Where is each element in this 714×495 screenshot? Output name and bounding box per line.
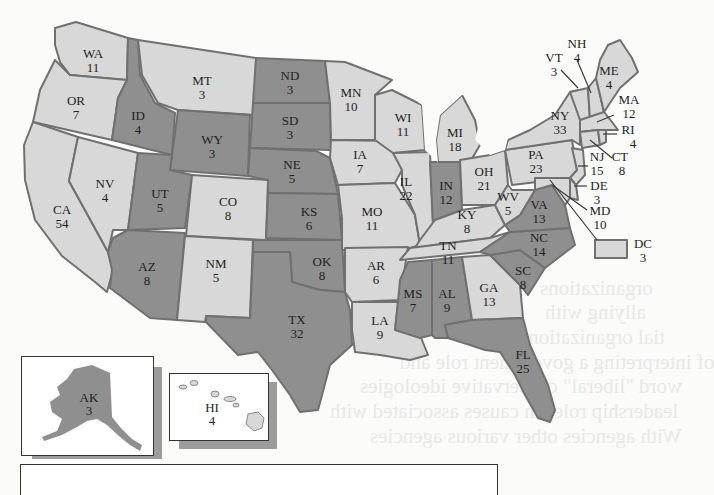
svg-text:OK: OK [313, 254, 332, 269]
svg-text:TX: TX [288, 312, 306, 327]
svg-text:AR: AR [367, 258, 385, 273]
svg-text:VA: VA [530, 197, 548, 212]
svg-text:CO: CO [219, 194, 237, 209]
svg-text:CA: CA [53, 202, 72, 217]
svg-text:54: 54 [56, 216, 70, 231]
svg-text:7: 7 [73, 107, 80, 122]
svg-text:UT: UT [151, 186, 168, 201]
svg-text:MO: MO [362, 204, 383, 219]
svg-text:8: 8 [225, 208, 232, 223]
svg-text:MD: MD [590, 203, 611, 218]
alaska-shape: AK 3 [22, 357, 153, 455]
svg-text:9: 9 [444, 300, 451, 315]
svg-text:21: 21 [478, 178, 491, 193]
svg-text:3: 3 [209, 146, 216, 161]
svg-text:NC: NC [530, 230, 548, 245]
state-DC-box [595, 240, 627, 258]
svg-text:NY: NY [551, 108, 570, 123]
svg-text:WY: WY [201, 132, 223, 147]
svg-text:3: 3 [287, 82, 294, 97]
svg-text:9: 9 [377, 327, 384, 342]
leader-line-VT [561, 70, 578, 88]
svg-text:10: 10 [345, 99, 358, 114]
svg-text:7: 7 [357, 161, 364, 176]
svg-text:23: 23 [530, 161, 543, 176]
svg-text:PA: PA [528, 147, 544, 162]
svg-text:5: 5 [289, 171, 296, 186]
svg-text:TN: TN [439, 238, 457, 253]
svg-text:11: 11 [397, 124, 410, 139]
svg-text:3: 3 [86, 403, 93, 418]
svg-text:CT: CT [612, 149, 629, 164]
svg-text:MA: MA [619, 92, 641, 107]
svg-text:7: 7 [410, 300, 417, 315]
svg-text:IN: IN [439, 178, 453, 193]
svg-text:VT: VT [545, 50, 562, 65]
svg-text:IA: IA [353, 147, 367, 162]
svg-text:4: 4 [102, 190, 109, 205]
svg-text:SD: SD [282, 113, 299, 128]
svg-text:KS: KS [301, 204, 318, 219]
svg-text:3: 3 [199, 87, 206, 102]
alaska-inset: AK 3 [21, 356, 154, 456]
svg-text:22: 22 [400, 188, 413, 203]
svg-text:WI: WI [395, 110, 412, 125]
svg-text:6: 6 [373, 272, 380, 287]
svg-text:NV: NV [96, 176, 115, 191]
svg-text:25: 25 [517, 361, 530, 376]
svg-text:12: 12 [440, 192, 453, 207]
svg-text:12: 12 [623, 106, 636, 121]
svg-text:13: 13 [533, 211, 546, 226]
svg-text:OH: OH [475, 164, 494, 179]
svg-text:NM: NM [206, 256, 227, 271]
svg-text:33: 33 [554, 122, 567, 137]
svg-text:ID: ID [131, 108, 145, 123]
svg-text:MS: MS [404, 286, 423, 301]
svg-text:AZ: AZ [138, 259, 155, 274]
svg-text:DE: DE [590, 178, 607, 193]
svg-text:4: 4 [630, 136, 637, 151]
svg-text:DC: DC [634, 236, 652, 251]
svg-text:LA: LA [371, 313, 389, 328]
svg-text:GA: GA [480, 280, 499, 295]
svg-text:WA: WA [83, 46, 104, 61]
svg-text:RI: RI [622, 122, 635, 137]
svg-text:NJ: NJ [590, 149, 604, 164]
svg-text:11: 11 [87, 60, 100, 75]
svg-text:NH: NH [568, 36, 587, 51]
svg-text:IL: IL [400, 174, 412, 189]
svg-text:6: 6 [306, 218, 313, 233]
svg-text:10: 10 [594, 217, 607, 232]
svg-text:ND: ND [281, 68, 300, 83]
svg-text:8: 8 [144, 273, 151, 288]
svg-text:8: 8 [520, 277, 527, 292]
svg-text:OR: OR [67, 93, 85, 108]
svg-text:MI: MI [447, 125, 463, 140]
svg-text:4: 4 [574, 50, 581, 65]
svg-text:3: 3 [287, 127, 294, 142]
svg-text:MN: MN [341, 85, 363, 100]
svg-text:8: 8 [464, 221, 471, 236]
hawaii-shape: HI 4 [170, 374, 268, 440]
svg-text:11: 11 [366, 218, 379, 233]
svg-text:SC: SC [515, 263, 531, 278]
svg-text:4: 4 [135, 122, 142, 137]
svg-text:ME: ME [599, 63, 619, 78]
svg-text:5: 5 [157, 200, 164, 215]
hawaii-inset: HI 4 [169, 373, 269, 441]
svg-text:NE: NE [283, 157, 300, 172]
state-RI [598, 130, 606, 145]
state-FL [445, 318, 555, 422]
svg-text:KY: KY [458, 207, 477, 222]
svg-text:8: 8 [319, 268, 326, 283]
svg-text:3: 3 [640, 250, 647, 265]
svg-text:11: 11 [442, 252, 455, 267]
svg-text:MT: MT [192, 73, 212, 88]
svg-text:32: 32 [291, 326, 304, 341]
svg-text:AL: AL [438, 286, 455, 301]
svg-text:4: 4 [606, 77, 613, 92]
svg-text:8: 8 [619, 163, 626, 178]
svg-text:FL: FL [515, 347, 530, 362]
svg-text:18: 18 [449, 139, 462, 154]
svg-text:13: 13 [483, 294, 496, 309]
